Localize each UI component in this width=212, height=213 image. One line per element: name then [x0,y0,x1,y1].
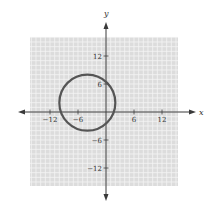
y-tick-label: −6 [92,137,103,145]
x-axis-arrow-right-icon [189,110,196,115]
x-axis-label: x [199,108,204,117]
x-tick-label: −12 [43,116,58,124]
y-axis-arrow-up-icon [104,22,109,29]
y-tick-label: 6 [98,81,103,89]
x-axis-arrow-left-icon [18,110,25,115]
y-tick-label: −12 [87,165,102,173]
x-tick-label: 12 [158,116,167,124]
x-tick-label: −6 [73,116,84,124]
chart: −12−6612126−6−12 x y [0,0,212,213]
y-axis-arrow-down-icon [104,194,109,201]
y-axis-label: y [103,9,109,18]
y-tick-label: 12 [93,53,102,61]
x-tick-label: 6 [132,116,137,124]
